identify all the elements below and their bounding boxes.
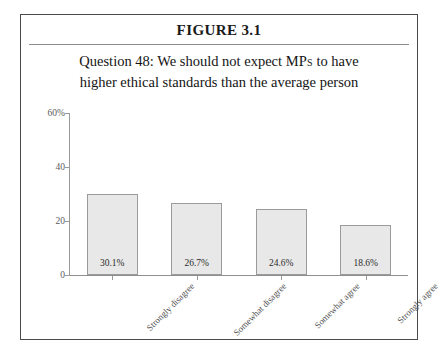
figure-frame: FIGURE 3.1 Question 48: We should not ex… (20, 14, 418, 340)
y-axis-tick-label: 20 (31, 216, 65, 226)
figure-title: FIGURE 3.1 (21, 22, 417, 39)
bar[interactable]: 24.6% (256, 209, 307, 275)
bar-value-label: 30.1% (88, 258, 137, 268)
x-axis-line (69, 275, 408, 276)
subtitle-text-pre: Question 48: We should not expect (79, 53, 285, 69)
x-axis-category-label: Somewhat disagree (231, 281, 288, 338)
chart-plot-area: 0204060% 30.1%26.7%24.6%18.6% Strongly d… (21, 93, 417, 339)
bar[interactable]: 26.7% (171, 203, 222, 275)
y-axis-tick-mark (65, 167, 70, 168)
subtitle-text-post: to have (313, 53, 359, 69)
x-axis-tick-mark (366, 276, 367, 280)
x-axis-tick-mark (112, 276, 113, 280)
bar-value-label: 24.6% (257, 258, 306, 268)
y-axis-tick-label: 0 (31, 270, 65, 280)
y-axis-tick-labels: 0204060% (31, 93, 65, 275)
figure-subtitle-line-1: Question 48: We should not expect MPs to… (43, 51, 395, 73)
figure-subtitle-line-2: higher ethical standards than the averag… (43, 72, 395, 94)
y-axis-tick-label: 60% (31, 108, 65, 118)
y-axis-tick-mark (65, 275, 70, 276)
subtitle-mps-abbreviation: MPs (286, 53, 313, 69)
x-axis-category-label: Somewhat agree (313, 281, 362, 330)
x-axis-category-label: Strongly agree (395, 281, 439, 325)
y-axis-tick-label: 40 (31, 162, 65, 172)
figure-subtitle: Question 48: We should not expect MPs to… (43, 51, 395, 95)
y-axis-tick-mark (65, 221, 70, 222)
bar-series: 30.1%26.7%24.6%18.6% (70, 113, 408, 275)
x-axis-category-label: Strongly disagree (145, 281, 197, 333)
bar[interactable]: 30.1% (87, 194, 138, 275)
title-divider (29, 44, 409, 45)
x-axis-tick-mark (197, 276, 198, 280)
bar[interactable]: 18.6% (340, 225, 391, 275)
bar-value-label: 18.6% (341, 258, 390, 268)
y-axis-tick-mark (65, 113, 70, 114)
x-axis-tick-mark (281, 276, 282, 280)
bar-value-label: 26.7% (172, 258, 221, 268)
x-axis-category-labels: Strongly disagreeSomewhat disagreeSomewh… (70, 281, 408, 339)
